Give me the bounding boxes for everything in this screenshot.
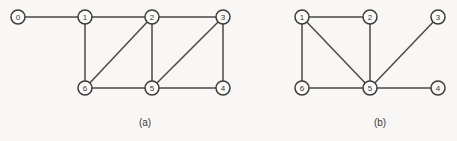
graph-node-5[interactable]: 5 (145, 81, 159, 95)
graph-node-circle-0 (11, 10, 25, 24)
graph-node-circle-4 (216, 81, 230, 95)
graph-node-0[interactable]: 0 (11, 10, 25, 24)
graph-node-6[interactable]: 6 (295, 81, 309, 95)
graph-svg-canvas: 0123654123654 (a)(b) (0, 0, 457, 141)
graph-edge-3-5 (157, 22, 218, 83)
graph-node-circle-3 (216, 10, 230, 24)
graph-node-4[interactable]: 4 (431, 81, 445, 95)
graph-edge-2-6 (90, 22, 147, 83)
graph-node-circle-2 (363, 10, 377, 24)
panel-caption-panel-a: (a) (139, 117, 151, 128)
graph-edge-3-5 (375, 22, 433, 83)
graph-node-5[interactable]: 5 (363, 81, 377, 95)
captions-layer: (a)(b) (139, 117, 386, 128)
graph-node-3[interactable]: 3 (431, 10, 445, 24)
graph-node-1[interactable]: 1 (295, 10, 309, 24)
graph-node-circle-3 (431, 10, 445, 24)
panel-caption-panel-b: (b) (374, 117, 386, 128)
graph-node-6[interactable]: 6 (78, 81, 92, 95)
graph-node-circle-6 (295, 81, 309, 95)
graph-node-circle-6 (78, 81, 92, 95)
graph-node-1[interactable]: 1 (78, 10, 92, 24)
graph-node-4[interactable]: 4 (216, 81, 230, 95)
edges-layer (25, 17, 433, 88)
graph-node-2[interactable]: 2 (363, 10, 377, 24)
nodes-layer: 0123654123654 (11, 10, 445, 95)
graph-node-3[interactable]: 3 (216, 10, 230, 24)
graph-figure: 0123654123654 (a)(b) (0, 0, 457, 141)
graph-node-circle-5 (145, 81, 159, 95)
graph-node-circle-2 (145, 10, 159, 24)
graph-edge-1-5 (307, 22, 365, 83)
graph-node-circle-1 (295, 10, 309, 24)
graph-node-circle-1 (78, 10, 92, 24)
graph-node-circle-4 (431, 81, 445, 95)
graph-node-circle-5 (363, 81, 377, 95)
graph-node-2[interactable]: 2 (145, 10, 159, 24)
